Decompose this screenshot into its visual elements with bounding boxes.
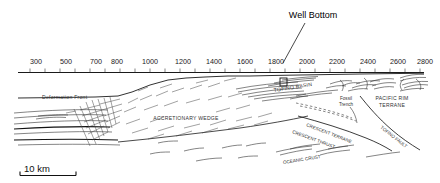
fossil-trench-annotation: Fossil Trench xyxy=(339,96,357,123)
well-bottom-callout: Well Bottom xyxy=(283,10,337,63)
axis-tick-label: 1600 xyxy=(237,57,253,66)
axis-tick-label: 2800 xyxy=(417,57,433,66)
deformation-front-zone: Deformation Front xyxy=(14,94,122,146)
fossil-trench-label-line1: Fossil xyxy=(340,96,352,101)
pacific-rim-label-line1: PACIFIC RIM xyxy=(375,95,408,101)
axis-tick-label: 1000 xyxy=(142,57,158,66)
axis-tick-label: 1800 xyxy=(268,57,284,66)
accretionary-wedge-label: ACCRETIONARY WEDGE xyxy=(153,115,219,121)
crescent-terrane-zone: CRESCENT TERRANE CRESCENT THRUST xyxy=(292,103,392,151)
crescent-thrust-line xyxy=(298,116,392,151)
scale-bar-label: 10 km xyxy=(24,163,50,174)
axis-tick-label: 700 xyxy=(90,57,102,66)
axis-tick-label: 300 xyxy=(30,57,42,66)
axis-tick-label: 2400 xyxy=(360,57,376,66)
axis-tick-label: 2000 xyxy=(299,57,315,66)
oceanic-crust-label: OCEANIC CRUST xyxy=(283,154,322,165)
axis-tick-label: 2200 xyxy=(329,57,345,66)
axis-tick-label: 1200 xyxy=(175,57,191,66)
tofino-basin-label: TOFINO BASIN xyxy=(273,81,312,93)
axis-tick-labels: 300 500 700 800 1000 1200 1400 1600 1800… xyxy=(30,57,433,66)
oceanic-crust-zone: OCEANIC CRUST xyxy=(150,141,400,165)
tofino-fault-label: TOFINO FAULT xyxy=(379,125,408,149)
axis-ticks xyxy=(30,69,420,73)
deformation-front-label: Deformation Front xyxy=(42,94,88,100)
axis-tick-label: 500 xyxy=(60,57,72,66)
distance-axis: 300 500 700 800 1000 1200 1400 1600 1800… xyxy=(18,57,433,73)
fossil-trench-leader xyxy=(350,107,357,123)
well-bottom-label: Well Bottom xyxy=(289,10,337,20)
cross-section-figure: Well Bottom xyxy=(0,0,440,183)
axis-tick-label: 800 xyxy=(111,57,123,66)
axis-tick-label: 1400 xyxy=(206,57,222,66)
scale-bar: 10 km xyxy=(20,163,76,176)
axis-tick-label: 2600 xyxy=(390,57,406,66)
fossil-trench-label-line2: Trench xyxy=(339,102,354,107)
pacific-rim-label-line2: TERRANE xyxy=(379,102,405,108)
cross-section-canvas: Well Bottom xyxy=(0,0,440,183)
